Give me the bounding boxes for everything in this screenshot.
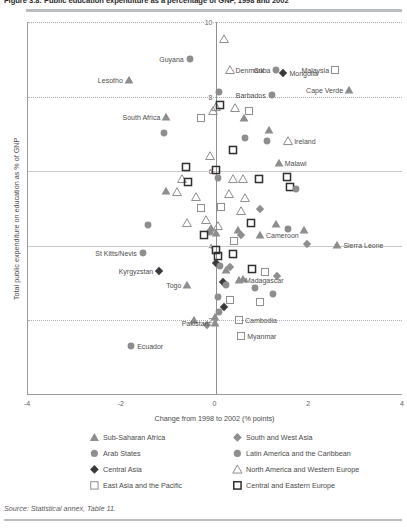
data-point (219, 34, 229, 44)
data-point (239, 193, 249, 203)
data-point (283, 135, 293, 145)
point-label: Sierra Leone (343, 242, 383, 249)
legend-item[interactable]: East Asia and the Pacific (89, 480, 182, 491)
legend-label: Latin America and the Caribbean (246, 449, 351, 458)
data-point (196, 113, 206, 123)
data-point (213, 173, 223, 183)
data-point (245, 217, 255, 227)
legend-item[interactable]: North America and Western Europe (232, 464, 359, 475)
data-point (224, 65, 234, 75)
data-point (199, 230, 209, 240)
legend-label: South and West Asia (246, 433, 313, 442)
legend-item[interactable]: Arab States (89, 448, 141, 459)
data-point (267, 90, 277, 100)
data-point (330, 65, 340, 75)
legend-label: Central and Eastern Europe (246, 481, 335, 490)
y-tick-label: 10 (204, 19, 214, 26)
page-title: Figure 3.8: Public education expenditure… (4, 0, 404, 5)
data-point (262, 135, 272, 145)
data-point (270, 219, 280, 229)
legend-item[interactable]: Central Asia (89, 464, 142, 475)
data-point (182, 280, 192, 290)
data-point (228, 144, 238, 154)
x-tick-label: 0 (213, 400, 217, 407)
data-point (181, 162, 191, 172)
data-point (298, 225, 308, 235)
point-label: Cape Verde (306, 86, 343, 93)
scatter-plot: 246810GuyanaLesothoDenmarkCubaMongoliaMa… (27, 22, 402, 395)
data-point (260, 267, 270, 277)
point-label: Ecuador (137, 342, 163, 349)
data-point (223, 188, 233, 198)
data-point (234, 275, 244, 285)
legend-item[interactable]: Central and Eastern Europe (232, 480, 335, 491)
legend-marker-icon (89, 464, 100, 475)
data-point (228, 249, 238, 259)
data-point (124, 75, 134, 85)
data-point (209, 318, 219, 328)
point-label: South Africa (123, 114, 161, 121)
legend-item[interactable]: South and West Asia (232, 432, 313, 443)
data-point (221, 280, 231, 290)
point-label: Kyrgyzstan (119, 268, 154, 275)
source-note: Source: Statistical annex, Table 11. (4, 504, 116, 513)
data-point (291, 184, 301, 194)
data-point (183, 177, 193, 187)
data-point (214, 87, 224, 97)
point-label: Cameroon (266, 232, 299, 239)
legend-label: Arab States (103, 449, 141, 458)
data-point (126, 341, 136, 351)
legend-marker-icon (89, 480, 100, 491)
data-point (236, 229, 246, 239)
data-point (213, 292, 223, 302)
data-point (282, 172, 292, 182)
data-point (159, 128, 169, 138)
legend-marker-icon (232, 464, 243, 475)
data-point (224, 262, 234, 272)
point-label: Myanmar (247, 333, 276, 340)
data-point (274, 158, 284, 168)
point-label: Barbados (236, 91, 266, 98)
data-point (302, 239, 312, 249)
point-label: Malaysia (301, 66, 329, 73)
x-tick-label: 2 (306, 400, 310, 407)
legend-label: Central Asia (103, 465, 142, 474)
data-point (237, 173, 247, 183)
data-point (255, 297, 265, 307)
data-point (236, 206, 246, 216)
x-tick-label: -4 (24, 400, 30, 407)
data-point (142, 220, 152, 230)
legend-item[interactable]: Sub-Saharan Africa (89, 432, 165, 443)
data-point (191, 191, 201, 201)
y-axis-label: Total public expenditure on education as… (12, 138, 21, 300)
point-label: Madagascar (245, 277, 284, 284)
data-point (239, 132, 249, 142)
point-label: Ireland (294, 137, 315, 144)
data-point (154, 266, 164, 276)
data-point (207, 106, 217, 116)
data-point (230, 103, 240, 113)
data-point (250, 282, 260, 292)
data-point (216, 201, 226, 211)
point-label: Cuba (254, 66, 271, 73)
data-point (234, 315, 244, 325)
chart-legend: Sub-Saharan AfricaArab StatesCentral Asi… (27, 432, 402, 494)
bottom-divider (4, 519, 402, 521)
point-label: Togo (166, 281, 181, 288)
data-point (332, 240, 342, 250)
data-point (182, 217, 192, 227)
data-point (138, 248, 148, 258)
data-point (264, 125, 274, 135)
point-label: Guyana (159, 56, 184, 63)
title-divider (26, 9, 402, 12)
plot-canvas: 246810GuyanaLesothoDenmarkCubaMongoliaMa… (28, 22, 402, 394)
data-point (205, 150, 215, 160)
point-label: Lesotho (98, 76, 123, 83)
data-point (211, 228, 221, 238)
data-point (255, 204, 265, 214)
point-label: Cambodia (245, 317, 277, 324)
data-point (236, 331, 246, 341)
legend-item[interactable]: Latin America and the Caribbean (232, 448, 351, 459)
data-point (161, 112, 171, 122)
y-tick-label: 8 (208, 93, 214, 100)
